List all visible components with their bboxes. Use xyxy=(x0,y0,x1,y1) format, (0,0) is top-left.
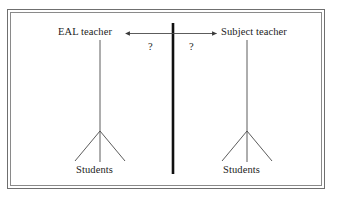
eal-teacher-label: EAL teacher xyxy=(58,26,112,37)
right-question-mark: ? xyxy=(189,41,194,52)
diagram-figure: EAL teacher Subject teacher Students Stu… xyxy=(0,0,337,202)
left-students-label: Students xyxy=(76,164,113,175)
right-branch-line-2 xyxy=(247,131,272,161)
left-branch-line-1 xyxy=(75,131,100,161)
left-question-mark: ? xyxy=(148,41,153,52)
subject-teacher-label: Subject teacher xyxy=(221,26,287,37)
right-branch-line-1 xyxy=(222,131,247,161)
left-branch-line-2 xyxy=(100,131,125,161)
right-students-label: Students xyxy=(223,164,260,175)
